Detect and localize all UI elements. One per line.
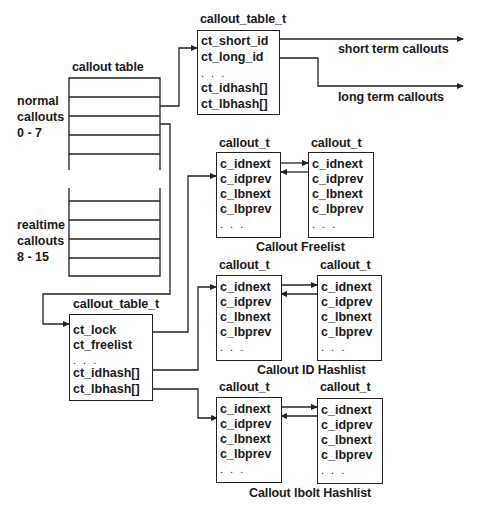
field-c-idprev: c_idprev	[321, 418, 372, 432]
field-c-idnext: c_idnext	[321, 403, 372, 417]
top-struct-type-label: callout_table_t	[200, 12, 286, 26]
field-ct-short-id: ct_short_id	[201, 34, 268, 48]
field-c-idnext: c_idnext	[321, 280, 372, 294]
callout-type-label: callout_t	[219, 136, 270, 150]
callout-type-label: callout_t	[311, 136, 362, 150]
field-c-lbnext: c_lbnext	[321, 433, 372, 447]
callout-type-label: callout_t	[219, 380, 270, 394]
field-c-idprev: c_idprev	[321, 295, 372, 309]
idhash-callout-1: c_idnext c_idprev c_lbnext c_lbprev . . …	[216, 275, 282, 361]
field-c-lbprev: c_lbprev	[321, 448, 372, 462]
field-ellipsis: . . .	[321, 463, 346, 477]
field-ct-lbhash: ct_lbhash[]	[73, 382, 140, 396]
field-c-idnext: c_idnext	[220, 402, 271, 416]
callout-table-realtime-segment	[69, 188, 160, 276]
field-c-lbnext: c_lbnext	[220, 310, 271, 324]
field-c-lbnext: c_lbnext	[321, 310, 372, 324]
arrow-row-to-top-struct	[160, 48, 197, 106]
top-callout-table-struct: ct_short_id ct_long_id . . . ct_idhash[]…	[197, 30, 280, 115]
field-ct-lbhash: ct_lbhash[]	[201, 97, 268, 111]
field-ellipsis: . . .	[220, 340, 245, 354]
bottom-callout-table-struct: ct_lock ct_freelist . . . ct_idhash[] ct…	[69, 314, 153, 401]
field-c-lbprev: c_lbprev	[220, 202, 271, 216]
field-ellipsis: . . .	[220, 462, 245, 476]
lbhash-callout-1: c_idnext c_idprev c_lbnext c_lbprev . . …	[216, 397, 282, 483]
arrow-lbhash	[152, 389, 217, 418]
callout-table-normal-segment	[69, 78, 160, 170]
field-c-idprev: c_idprev	[312, 172, 363, 186]
freelist-callout-2: c_idnext c_idprev c_lbnext c_lbprev . . …	[308, 152, 374, 238]
realtime-callouts-label: realtime callouts 8 - 15	[17, 217, 65, 265]
field-c-idnext: c_idnext	[312, 157, 363, 171]
field-c-idprev: c_idprev	[220, 172, 271, 186]
field-ellipsis: . . .	[312, 217, 337, 231]
field-c-idnext: c_idnext	[220, 280, 271, 294]
field-c-lbprev: c_lbprev	[220, 325, 271, 339]
idhash-callout-2: c_idnext c_idprev c_lbnext c_lbprev . . …	[317, 275, 382, 361]
field-ct-long-id: ct_long_id	[201, 50, 264, 64]
callout-type-label: callout_t	[320, 380, 371, 394]
field-c-lbprev: c_lbprev	[312, 202, 363, 216]
field-ct-lock: ct_lock	[73, 323, 116, 337]
field-ct-freelist: ct_freelist	[73, 338, 132, 352]
field-ct-idhash: ct_idhash[]	[73, 366, 140, 380]
arrow-idhash	[152, 287, 216, 370]
field-c-lbprev: c_lbprev	[220, 447, 271, 461]
long-term-callouts-label: long term callouts	[338, 90, 444, 104]
field-c-lbnext: c_lbnext	[312, 187, 363, 201]
field-ct-idhash: ct_idhash[]	[201, 81, 268, 95]
field-c-idprev: c_idprev	[220, 295, 271, 309]
arrow-long-term	[279, 58, 463, 86]
bottom-struct-type-label: callout_table_t	[73, 297, 159, 311]
normal-callouts-label: normal callouts 0 - 7	[17, 93, 64, 141]
idhash-caption: Callout ID Hashlist	[257, 363, 366, 377]
field-c-lbprev: c_lbprev	[321, 325, 372, 339]
callout-table-label: callout table	[72, 60, 144, 74]
freelist-callout-1: c_idnext c_idprev c_lbnext c_lbprev . . …	[216, 152, 281, 238]
short-term-callouts-label: short term callouts	[338, 42, 449, 56]
callout-type-label: callout_t	[320, 258, 371, 272]
field-c-lbnext: c_lbnext	[220, 432, 271, 446]
lbhash-callout-2: c_idnext c_idprev c_lbnext c_lbprev . . …	[317, 398, 383, 484]
field-c-idnext: c_idnext	[220, 157, 271, 171]
freelist-caption: Callout Freelist	[256, 240, 345, 254]
field-c-lbnext: c_lbnext	[220, 187, 271, 201]
lbhash-caption: Callout lbolt Hashlist	[249, 486, 371, 500]
arrow-freelist	[152, 176, 216, 332]
field-ellipsis: . . .	[321, 340, 346, 354]
field-c-idprev: c_idprev	[220, 417, 271, 431]
field-ellipsis: . . .	[220, 217, 245, 231]
field-ellipsis: . . .	[201, 66, 226, 80]
field-ellipsis: . . .	[73, 353, 98, 367]
callout-type-label: callout_t	[219, 258, 270, 272]
